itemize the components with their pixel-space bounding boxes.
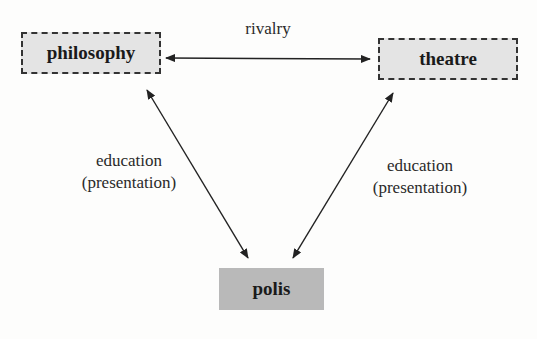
- rivalry-label: rivalry: [228, 18, 308, 40]
- right-edge-label-line1: education: [355, 155, 485, 177]
- theatre-node: theatre: [378, 38, 518, 80]
- right-edge-label: education (presentation): [355, 155, 485, 199]
- left-edge-label: education (presentation): [64, 150, 194, 194]
- rivalry-arrow: [166, 58, 370, 59]
- right-edge-label-line2: (presentation): [355, 177, 485, 199]
- polis-node: polis: [219, 268, 324, 310]
- philosophy-label: philosophy: [47, 42, 136, 64]
- left-edge-label-line2: (presentation): [64, 172, 194, 194]
- polis-label: polis: [252, 278, 290, 300]
- philosophy-node: philosophy: [21, 32, 161, 74]
- left-edge-label-line1: education: [64, 150, 194, 172]
- theatre-label: theatre: [419, 48, 477, 70]
